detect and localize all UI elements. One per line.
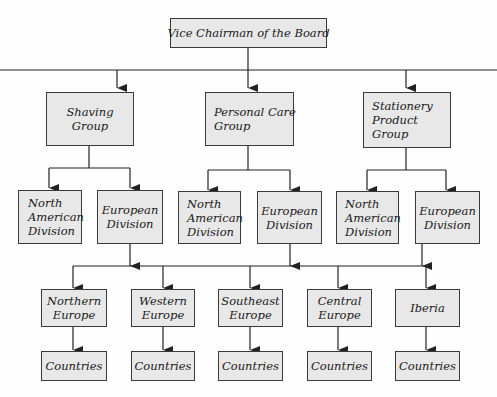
northern-europe-box: Northern Europe bbox=[41, 289, 107, 327]
vice-chairman-label: Vice Chairman of the Board bbox=[167, 26, 329, 40]
personal-care-european-division-box: European Division bbox=[257, 191, 322, 244]
southeast-europe-countries-box: Countries bbox=[218, 351, 283, 381]
iberia-countries-box: Countries bbox=[395, 351, 460, 381]
iberia-box: Iberia bbox=[395, 289, 460, 327]
southeast-europe-box: Southeast Europe bbox=[218, 289, 283, 327]
western-europe-countries-box: Countries bbox=[131, 351, 195, 381]
stationery-north-american-division-box: North American Division bbox=[336, 191, 399, 244]
stationery-group-box: Stationery Product Group bbox=[363, 92, 451, 148]
central-europe-countries-box: Countries bbox=[307, 351, 372, 381]
shaving-european-division-box: European Division bbox=[97, 190, 163, 244]
shaving-group-box: Shaving Group bbox=[46, 92, 134, 146]
northern-europe-countries-box: Countries bbox=[41, 351, 107, 381]
vice-chairman-box: Vice Chairman of the Board bbox=[170, 18, 327, 48]
central-europe-box: Central Europe bbox=[307, 289, 372, 327]
stationery-european-division-box: European Division bbox=[415, 191, 480, 244]
personal-care-north-american-division-box: North American Division bbox=[178, 191, 241, 244]
personal-care-group-box: Personal Care Group bbox=[205, 92, 294, 146]
western-europe-box: Western Europe bbox=[131, 289, 195, 327]
org-chart: Vice Chairman of the Board Shaving Group… bbox=[0, 0, 497, 397]
shaving-north-american-division-box: North American Division bbox=[18, 190, 82, 244]
